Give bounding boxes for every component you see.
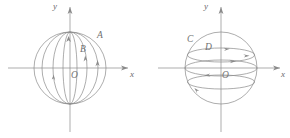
right-panel-axes bbox=[158, 7, 280, 132]
right-arrow-upper-right bbox=[243, 54, 249, 57]
figure-canvas: y x O A B y x O C D bbox=[0, 0, 290, 138]
left-arrow-outer bbox=[95, 60, 99, 66]
right-y-axis-label: y bbox=[204, 2, 208, 11]
right-origin-label: O bbox=[222, 71, 229, 81]
left-arrow-inner bbox=[84, 56, 88, 62]
left-panel-axes bbox=[8, 7, 128, 132]
point-label-d: D bbox=[205, 43, 212, 53]
point-label-a: A bbox=[97, 31, 103, 41]
point-label-b: B bbox=[80, 45, 86, 55]
left-origin-label: O bbox=[71, 71, 78, 81]
left-y-axis-label: y bbox=[53, 2, 57, 11]
left-x-axis-label: x bbox=[130, 70, 134, 79]
geometry-diagram bbox=[0, 0, 290, 138]
point-label-c: C bbox=[187, 35, 193, 45]
right-x-axis-label: x bbox=[281, 70, 285, 79]
